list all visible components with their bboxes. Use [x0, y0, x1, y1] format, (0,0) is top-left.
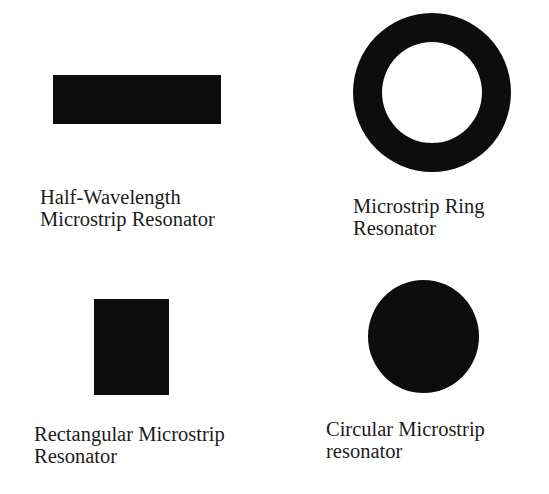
caption-line: Resonator — [34, 445, 225, 467]
rectangular-resonator-shape — [94, 299, 169, 395]
caption-line: resonator — [326, 440, 485, 462]
caption-line: Microstrip Ring — [353, 195, 485, 217]
caption-line: Circular Microstrip — [326, 418, 485, 440]
half-wavelength-resonator-caption: Half-Wavelength Microstrip Resonator — [40, 186, 215, 230]
ring-resonator-caption: Microstrip Ring Resonator — [353, 195, 485, 239]
half-wavelength-resonator-shape — [53, 75, 221, 124]
circular-resonator-caption: Circular Microstrip resonator — [326, 418, 485, 462]
caption-line: Half-Wavelength — [40, 186, 215, 208]
caption-line: Resonator — [353, 217, 485, 239]
circular-resonator-shape — [368, 280, 479, 393]
caption-line: Microstrip Resonator — [40, 208, 215, 230]
ring-resonator-shape — [353, 13, 511, 172]
rectangular-resonator-caption: Rectangular Microstrip Resonator — [34, 423, 225, 467]
caption-line: Rectangular Microstrip — [34, 423, 225, 445]
